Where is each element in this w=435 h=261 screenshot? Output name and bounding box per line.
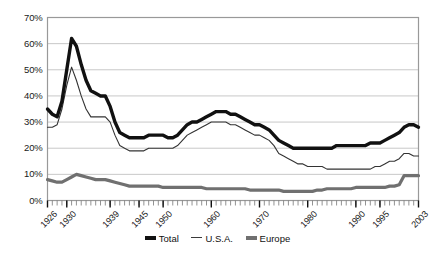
chart-container: 0%10%20%30%40%50%60%70% 1926193019391945… bbox=[0, 0, 435, 261]
chart-legend: Total U.S.A. Europe bbox=[0, 232, 435, 244]
y-axis-tick-label: 10% bbox=[24, 168, 42, 179]
y-axis-tick-label: 30% bbox=[24, 116, 42, 127]
plot-frame bbox=[48, 18, 419, 201]
plot-border bbox=[48, 18, 419, 201]
legend-swatch-usa-icon bbox=[191, 237, 202, 238]
legend-label-usa: U.S.A. bbox=[205, 233, 232, 244]
series-line-usa bbox=[48, 67, 419, 169]
y-axis-tick-label: 70% bbox=[24, 12, 42, 23]
series-line-total bbox=[48, 38, 419, 148]
legend-swatch-total-icon bbox=[145, 236, 156, 240]
y-axis-tick-label: 60% bbox=[24, 38, 42, 49]
legend-item-usa: U.S.A. bbox=[191, 232, 232, 244]
x-axis-minor-ticks bbox=[48, 201, 419, 206]
y-axis-tick-label: 40% bbox=[24, 90, 42, 101]
y-axis-tick-label: 50% bbox=[24, 64, 42, 75]
legend-label-total: Total bbox=[159, 233, 179, 244]
legend-item-europe: Europe bbox=[246, 232, 291, 244]
y-axis-tick-label: 0% bbox=[29, 195, 42, 206]
series-lines-group bbox=[48, 38, 419, 191]
legend-item-total: Total bbox=[145, 232, 179, 244]
series-line-europe bbox=[48, 174, 419, 191]
legend-label-europe: Europe bbox=[260, 233, 291, 244]
x-axis-major-ticks bbox=[48, 201, 419, 208]
y-axis-tick-label: 20% bbox=[24, 142, 42, 153]
legend-swatch-europe-icon bbox=[246, 236, 257, 240]
